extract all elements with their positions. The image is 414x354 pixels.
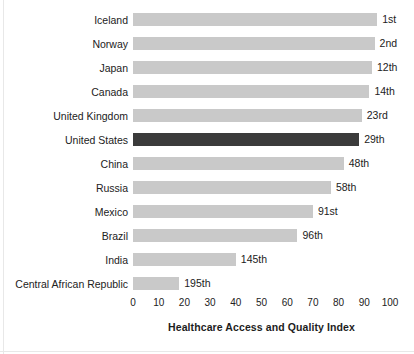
category-label-central-african-republic: Central African Republic — [0, 278, 133, 291]
bar-mexico — [133, 205, 313, 218]
bar-united-kingdom — [133, 109, 362, 122]
bar-row: Canada14th — [0, 80, 414, 104]
bar-group: 29th — [133, 133, 385, 146]
bar-group: 12th — [133, 61, 397, 74]
category-label-united-kingdom: United Kingdom — [0, 110, 133, 123]
bar-group: 58th — [133, 181, 356, 194]
bar-value-label: 91st — [318, 205, 338, 218]
bar-value-label: 48th — [349, 157, 369, 170]
x-tick-label: 60 — [282, 297, 293, 308]
category-label-india: India — [0, 254, 133, 267]
bar-united-states — [133, 133, 359, 146]
bar-value-label: 12th — [377, 61, 397, 74]
bar-row: United States29th — [0, 128, 414, 152]
bar-row: United Kingdom23rd — [0, 104, 414, 128]
bar-norway — [133, 37, 375, 50]
bar-value-label: 29th — [364, 133, 384, 146]
x-tick-label: 80 — [333, 297, 344, 308]
x-tick-label: 100 — [382, 297, 399, 308]
bar-group: 1st — [133, 13, 396, 26]
bar-value-label: 96th — [302, 229, 322, 242]
category-label-brazil: Brazil — [0, 230, 133, 243]
bar-row: Japan12th — [0, 56, 414, 80]
bar-row: Iceland1st — [0, 8, 414, 32]
x-tick-label: 90 — [359, 297, 370, 308]
bar-value-label: 1st — [382, 13, 396, 26]
bar-row: Brazil96th — [0, 224, 414, 248]
bar-india — [133, 253, 236, 266]
x-axis-ticks: 0102030405060708090100 — [133, 297, 390, 315]
category-label-united-states: United States — [0, 134, 133, 147]
x-tick-label: 70 — [307, 297, 318, 308]
bar-group: 14th — [133, 85, 395, 98]
x-tick-label: 10 — [153, 297, 164, 308]
bar-group: 195th — [133, 277, 211, 290]
bar-group: 96th — [133, 229, 323, 242]
bar-central-african-republic — [133, 277, 179, 290]
bar-row: India145th — [0, 248, 414, 272]
bar-value-label: 145th — [241, 253, 267, 266]
bar-row: Central African Republic195th — [0, 272, 414, 296]
x-tick-label: 40 — [230, 297, 241, 308]
bar-value-label: 14th — [374, 85, 394, 98]
category-label-mexico: Mexico — [0, 206, 133, 219]
category-label-russia: Russia — [0, 182, 133, 195]
bar-russia — [133, 181, 331, 194]
bar-value-label: 23rd — [367, 109, 388, 122]
bar-row: Russia58th — [0, 176, 414, 200]
bar-group: 23rd — [133, 109, 388, 122]
category-label-china: China — [0, 158, 133, 171]
bar-row: China48th — [0, 152, 414, 176]
category-label-iceland: Iceland — [0, 14, 133, 27]
bar-brazil — [133, 229, 297, 242]
bar-canada — [133, 85, 369, 98]
bar-value-label: 195th — [184, 277, 210, 290]
chart-page: Iceland1stNorway2ndJapan12thCanada14thUn… — [0, 0, 414, 354]
category-label-canada: Canada — [0, 86, 133, 99]
x-tick-label: 0 — [130, 297, 136, 308]
bar-japan — [133, 61, 372, 74]
x-tick-label: 30 — [205, 297, 216, 308]
bar-row: Mexico91st — [0, 200, 414, 224]
bar-group: 145th — [133, 253, 267, 266]
category-label-japan: Japan — [0, 62, 133, 75]
x-axis-title: Healthcare Access and Quality Index — [133, 321, 390, 333]
bar-value-label: 2nd — [380, 37, 398, 50]
category-label-norway: Norway — [0, 38, 133, 51]
bar-group: 2nd — [133, 37, 397, 50]
bar-row: Norway2nd — [0, 32, 414, 56]
bar-value-label: 58th — [336, 181, 356, 194]
bar-china — [133, 157, 344, 170]
bar-iceland — [133, 13, 377, 26]
bar-group: 91st — [133, 205, 338, 218]
x-tick-label: 50 — [256, 297, 267, 308]
bar-group: 48th — [133, 157, 369, 170]
x-tick-label: 20 — [179, 297, 190, 308]
